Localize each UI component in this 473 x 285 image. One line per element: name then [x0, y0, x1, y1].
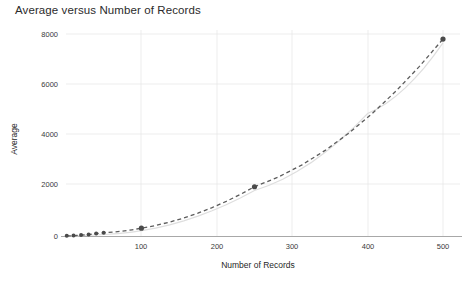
x-axis-title: Number of Records — [221, 260, 295, 270]
chart-screenshot: Average versus Number of Records 8000 60… — [0, 0, 473, 285]
x-tick-label-200: 200 — [211, 242, 224, 251]
data-point-marker — [65, 234, 69, 238]
average-data-line — [67, 39, 443, 236]
data-point-marker — [87, 232, 91, 236]
y-axis-title: Average — [9, 123, 19, 155]
x-tick-label-100: 100 — [135, 242, 148, 251]
y-tick-label-8000: 8000 — [41, 30, 58, 39]
data-point-marker — [440, 36, 445, 41]
data-point-marker — [139, 226, 144, 231]
x-tick-label-500: 500 — [437, 242, 450, 251]
trend-line-series — [67, 43, 443, 236]
data-point-marker — [252, 184, 257, 189]
y-tick-label-0: 0 — [54, 232, 58, 241]
chart-plot-area: 8000 6000 4000 2000 0 100 200 300 400 50… — [0, 0, 473, 285]
data-point-marker — [102, 231, 106, 235]
y-tick-label-2000: 2000 — [41, 180, 58, 189]
x-tick-label-400: 400 — [362, 242, 375, 251]
data-point-marker — [79, 233, 83, 237]
y-tick-label-6000: 6000 — [41, 80, 58, 89]
y-tick-label-4000: 4000 — [41, 130, 58, 139]
data-marker-group — [65, 36, 446, 237]
x-tick-label-300: 300 — [286, 242, 299, 251]
data-point-marker — [72, 234, 76, 238]
data-point-marker — [94, 232, 98, 236]
